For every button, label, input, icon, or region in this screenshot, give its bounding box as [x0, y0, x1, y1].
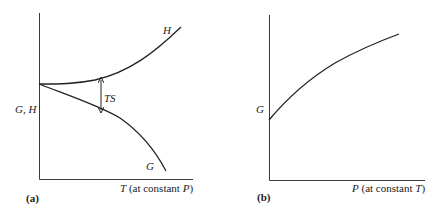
y-axis-label-b: G: [256, 103, 264, 115]
h-curve-label: H: [162, 24, 172, 36]
h-curve: [39, 27, 181, 84]
x-label-rest-b: (at constant: [359, 182, 416, 195]
y-axis-label-a: G, H: [15, 103, 37, 115]
ts-label: TS: [104, 92, 116, 104]
figure: TS H G G, H T (at constant P) (a) G P (a…: [0, 0, 441, 213]
x-label-close-b: ): [421, 182, 425, 195]
x-axis-label-b: P (at constant T): [351, 182, 425, 195]
panel-b: G P (at constant T) (b): [256, 15, 425, 204]
panel-a: TS H G G, H T (at constant P) (a): [15, 13, 193, 205]
x-label-rest-a: (at constant: [126, 182, 183, 195]
panel-tag-b: (b): [257, 191, 271, 204]
g-curve-b: [269, 34, 399, 120]
g-curve-label: G: [146, 160, 154, 172]
x-label-close-a: ): [189, 182, 193, 195]
x-axis-label-a: T (at constant P): [120, 182, 193, 195]
g-curve: [39, 84, 166, 171]
panel-tag-a: (a): [26, 192, 39, 205]
